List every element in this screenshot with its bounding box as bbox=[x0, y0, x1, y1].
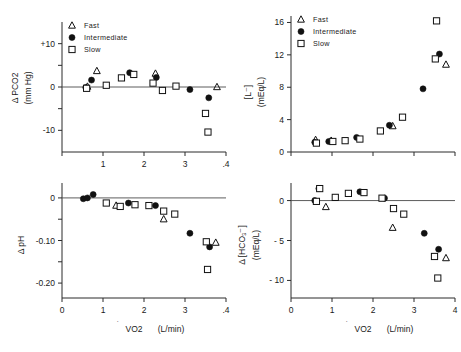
y-axis-label: Δ pH bbox=[16, 236, 26, 254]
legend-label-slow: Slow bbox=[84, 45, 101, 54]
y-tick-label: 16 bbox=[275, 17, 285, 27]
y-tick-label: 0 bbox=[279, 196, 284, 206]
data-point-slow bbox=[390, 205, 396, 211]
data-point-fast bbox=[160, 216, 167, 222]
chart-pco2: -100+10123.4Δ PCO2(mm Hg)FastIntermediat… bbox=[0, 0, 232, 178]
series-intermediate bbox=[83, 70, 212, 101]
data-point-slow bbox=[298, 40, 304, 46]
data-point-intermediate bbox=[420, 86, 426, 92]
legend-label-slow: Slow bbox=[313, 39, 330, 48]
y-tick-label: 8 bbox=[279, 82, 284, 92]
x-tick-label: 3 bbox=[183, 159, 188, 169]
data-point-intermediate bbox=[298, 29, 304, 35]
data-point-slow bbox=[118, 75, 124, 81]
data-point-slow bbox=[203, 239, 209, 245]
data-point-slow bbox=[205, 129, 211, 135]
x-tick-label: 3 bbox=[183, 305, 188, 315]
series-intermediate bbox=[312, 186, 442, 253]
y-tick-label: - 5 bbox=[274, 236, 284, 246]
x-tick-label: 1 bbox=[330, 305, 335, 315]
data-point-slow bbox=[150, 80, 156, 86]
data-point-fast bbox=[443, 254, 450, 260]
panel-delta-ph: -0.20-0.1000123.4Δ pH˙VO2(L/min) bbox=[0, 173, 232, 352]
data-point-intermediate bbox=[125, 200, 131, 206]
y-tick-label: +10 bbox=[41, 39, 56, 49]
data-point-slow bbox=[330, 138, 336, 144]
series-slow bbox=[313, 18, 439, 146]
data-point-slow bbox=[399, 114, 405, 120]
data-point-slow bbox=[69, 46, 75, 52]
data-point-fast bbox=[298, 16, 305, 22]
data-point-intermediate bbox=[69, 35, 75, 41]
vdot-icon: ˙ bbox=[117, 320, 120, 329]
legend-label-intermediate: Intermediate bbox=[313, 27, 357, 36]
data-point-slow bbox=[357, 136, 363, 142]
y-axis-units-label: (mEq/L) bbox=[251, 230, 261, 260]
x-tick-label: 2 bbox=[371, 305, 376, 315]
data-point-fast bbox=[443, 61, 450, 67]
data-point-slow bbox=[435, 275, 441, 281]
data-point-slow bbox=[146, 202, 152, 208]
data-point-slow bbox=[313, 140, 319, 146]
y-axis-label: [L⁻] bbox=[243, 85, 253, 99]
data-point-slow bbox=[361, 189, 367, 195]
data-point-slow bbox=[431, 253, 437, 259]
legend-label-intermediate: Intermediate bbox=[84, 33, 128, 42]
data-point-slow bbox=[103, 82, 109, 88]
data-point-slow bbox=[401, 211, 407, 217]
data-point-intermediate bbox=[386, 122, 392, 128]
x-axis-units-label: (L/min) bbox=[387, 324, 414, 334]
x-tick-label: 0 bbox=[60, 305, 65, 315]
data-point-intermediate bbox=[206, 95, 212, 101]
data-point-intermediate bbox=[90, 192, 96, 198]
y-tick-label: 0 bbox=[279, 147, 284, 157]
data-point-slow bbox=[84, 85, 90, 91]
data-point-slow bbox=[202, 110, 208, 116]
x-tick-label: 3 bbox=[412, 305, 417, 315]
data-point-fast bbox=[322, 203, 329, 209]
data-point-fast bbox=[214, 83, 221, 89]
data-point-fast bbox=[389, 224, 396, 230]
data-point-slow bbox=[117, 203, 123, 209]
data-point-intermediate bbox=[187, 230, 193, 236]
vdot-icon: ˙ bbox=[346, 320, 349, 329]
x-tick-label: 0 bbox=[289, 305, 294, 315]
chart-lactate: 0481216[L⁻](mEq/L)FastIntermediateSlow bbox=[229, 0, 461, 178]
series-slow bbox=[103, 200, 210, 273]
data-point-intermediate bbox=[421, 230, 427, 236]
data-point-slow bbox=[172, 211, 178, 217]
data-point-slow bbox=[379, 195, 385, 201]
panel-delta-hco3: - 10- 5001234Δ [HCO₃⁻](mEq/L)˙VO2(L/min) bbox=[229, 173, 461, 352]
data-point-slow bbox=[132, 202, 138, 208]
data-point-slow bbox=[204, 266, 210, 272]
data-point-intermediate bbox=[187, 87, 193, 93]
x-axis-label: VO2 bbox=[125, 324, 142, 334]
x-tick-label: 1 bbox=[101, 305, 106, 315]
y-axis-label: Δ PCO2 bbox=[10, 72, 20, 103]
figure-root: -100+10123.4Δ PCO2(mm Hg)FastIntermediat… bbox=[0, 0, 461, 352]
data-point-slow bbox=[433, 18, 439, 24]
data-point-slow bbox=[317, 185, 323, 191]
legend-label-fast: Fast bbox=[84, 21, 99, 30]
data-point-slow bbox=[103, 200, 109, 206]
panel-delta-pco2: -100+10123.4Δ PCO2(mm Hg)FastIntermediat… bbox=[0, 0, 232, 178]
data-point-slow bbox=[313, 198, 319, 204]
series-intermediate bbox=[80, 192, 212, 250]
y-axis-label: Δ [HCO₃⁻] bbox=[237, 225, 247, 265]
data-point-slow bbox=[342, 138, 348, 144]
y-tick-label: 12 bbox=[275, 50, 285, 60]
data-point-slow bbox=[432, 56, 438, 62]
data-point-fast bbox=[212, 239, 219, 245]
x-tick-label: 2 bbox=[142, 305, 147, 315]
panel-lactate: 0481216[L⁻](mEq/L)FastIntermediateSlow bbox=[229, 0, 461, 178]
data-point-slow bbox=[377, 128, 383, 134]
data-point-slow bbox=[173, 83, 179, 89]
series-slow bbox=[84, 71, 212, 135]
data-point-slow bbox=[161, 208, 167, 214]
y-tick-label: -10 bbox=[43, 125, 56, 135]
data-point-fast bbox=[69, 22, 76, 28]
data-point-intermediate bbox=[152, 203, 158, 209]
data-point-slow bbox=[159, 87, 165, 93]
y-tick-label: 0 bbox=[50, 193, 55, 203]
y-tick-label: - 10 bbox=[269, 275, 284, 285]
